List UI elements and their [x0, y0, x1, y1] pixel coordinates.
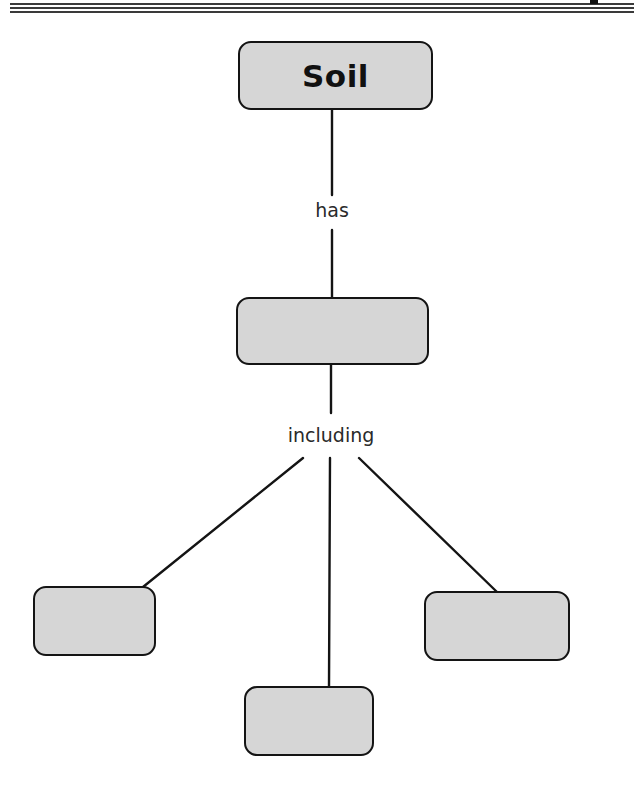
node-level2: [236, 297, 429, 365]
connector-including-to-leaf-right: [359, 458, 497, 592]
node-leaf-center: [244, 686, 374, 756]
node-leaf-left: [33, 586, 156, 656]
connector-including-to-leaf-center: [329, 458, 330, 688]
connector-including-to-leaf-left: [143, 458, 303, 587]
link-label-including: including: [266, 426, 396, 445]
node-leaf-right: [424, 591, 570, 661]
connector-lines: [0, 0, 634, 795]
node-soil-label: Soil: [302, 58, 369, 94]
link-label-has: has: [306, 201, 358, 220]
node-soil: Soil: [238, 41, 433, 110]
